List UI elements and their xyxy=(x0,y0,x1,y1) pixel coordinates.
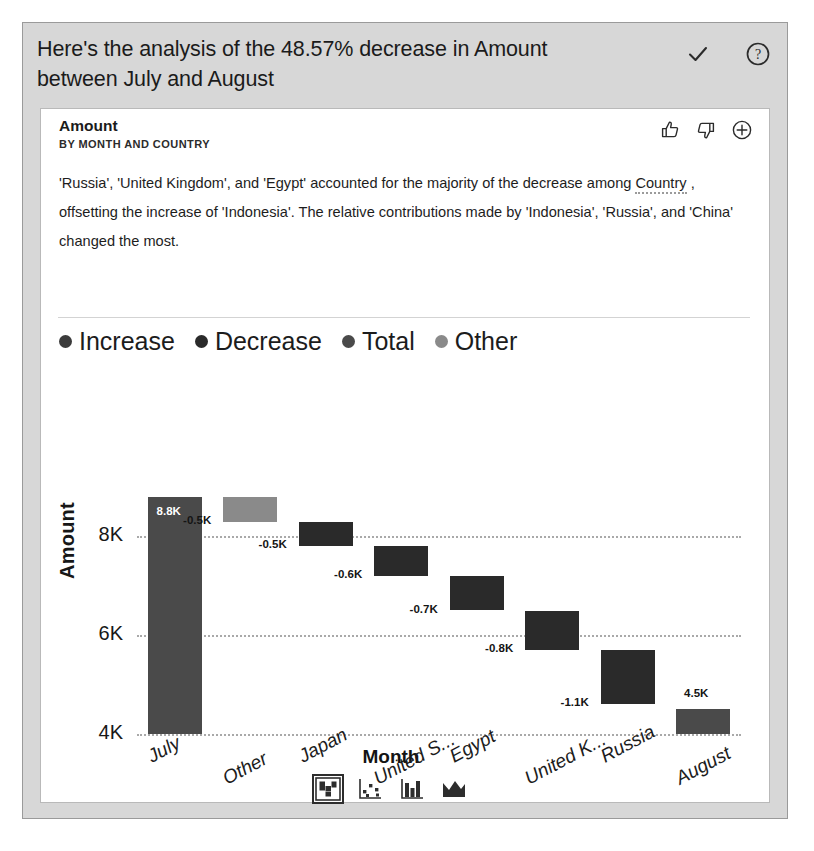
thumbs-up-icon[interactable] xyxy=(659,119,681,141)
legend-item-decrease[interactable]: Decrease xyxy=(195,329,322,354)
card-actions xyxy=(659,119,753,141)
legend-dot-icon xyxy=(195,335,208,348)
header-actions: ? xyxy=(685,41,771,67)
thumbs-down-icon[interactable] xyxy=(695,119,717,141)
bar-value-label: 8.8K xyxy=(157,505,181,517)
chart-bar[interactable] xyxy=(525,611,579,651)
legend-label: Decrease xyxy=(215,329,322,354)
check-icon[interactable] xyxy=(685,41,711,67)
area-chart-icon[interactable] xyxy=(441,777,467,801)
column-chart-icon[interactable] xyxy=(399,777,425,801)
bar-value-label: -0.6K xyxy=(334,568,362,580)
bar-value-label: -0.5K xyxy=(259,538,287,550)
narrative-field-term[interactable]: Country xyxy=(635,175,686,194)
legend-label: Total xyxy=(362,329,415,354)
bar-value-label: -0.7K xyxy=(410,603,438,615)
chart-bar[interactable] xyxy=(223,497,277,522)
card-divider xyxy=(58,317,750,318)
bar-value-label: -0.5K xyxy=(183,514,211,526)
plus-circle-icon[interactable] xyxy=(731,119,753,141)
waterfall-chart: Amount Month xyxy=(41,379,771,804)
legend-dot-icon xyxy=(59,335,72,348)
svg-text:?: ? xyxy=(755,47,761,62)
legend-item-increase[interactable]: Increase xyxy=(59,329,175,354)
y-axis-tick: 4K xyxy=(71,721,123,744)
chart-bar[interactable] xyxy=(676,709,730,734)
chart-bar[interactable] xyxy=(450,576,504,611)
card-title: Amount xyxy=(59,117,118,135)
narrative-part-1: 'Russia', 'United Kingdom', and 'Egypt' … xyxy=(59,175,635,191)
chart-bar[interactable] xyxy=(148,497,202,734)
chart-bar[interactable] xyxy=(374,546,428,576)
insight-panel: Here's the analysis of the 48.57% decrea… xyxy=(22,22,788,819)
bar-value-label: -1.1K xyxy=(561,696,589,708)
chart-bar[interactable] xyxy=(299,522,353,547)
legend-item-other[interactable]: Other xyxy=(435,329,518,354)
legend-item-total[interactable]: Total xyxy=(342,329,415,354)
legend-dot-icon xyxy=(435,335,448,348)
y-axis-tick: 6K xyxy=(71,622,123,645)
waterfall-chart-icon[interactable] xyxy=(315,777,341,801)
legend-label: Increase xyxy=(79,329,175,354)
legend-label: Other xyxy=(455,329,518,354)
chart-legend: IncreaseDecreaseTotalOther xyxy=(59,329,517,354)
help-circle-icon[interactable]: ? xyxy=(745,41,771,67)
chart-bar[interactable] xyxy=(601,650,655,704)
y-axis-tick: 8K xyxy=(71,523,123,546)
gridline xyxy=(137,536,741,538)
card-header: Amount BY MONTH AND COUNTRY xyxy=(41,109,769,167)
insight-header: Here's the analysis of the 48.57% decrea… xyxy=(23,23,787,108)
gridline xyxy=(137,635,741,637)
card-subtitle: BY MONTH AND COUNTRY xyxy=(59,138,210,150)
narrative-text: 'Russia', 'United Kingdom', and 'Egypt' … xyxy=(59,169,747,256)
bar-value-label: 4.5K xyxy=(684,687,708,699)
page-title: Here's the analysis of the 48.57% decrea… xyxy=(37,34,597,94)
bar-value-label: -0.8K xyxy=(485,642,513,654)
visual-card: Amount BY MONTH AND COUNTRY xyxy=(40,108,770,803)
legend-dot-icon xyxy=(342,335,355,348)
